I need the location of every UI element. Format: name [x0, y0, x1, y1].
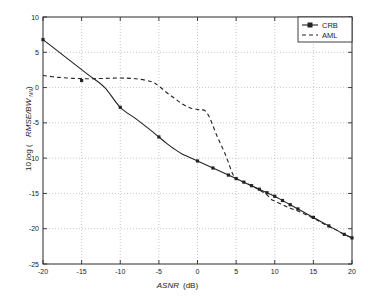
y-tick-label: 10: [31, 14, 39, 21]
legend-marker-crb: [308, 23, 313, 28]
x-tick-label: 5: [234, 268, 238, 275]
y-tick-label: 5: [35, 49, 39, 56]
x-tick-label: -15: [77, 268, 87, 275]
legend[interactable]: CRB AML: [298, 17, 352, 42]
y-tick-labels: -25-20-15-10-50510: [29, 14, 39, 268]
x-tick-label: -20: [38, 268, 48, 275]
y-tick-label: 0: [35, 84, 39, 91]
x-tick-label: 0: [196, 268, 200, 275]
series-marker-crb: [258, 188, 261, 191]
series-marker-crb: [157, 135, 160, 138]
series-crb-path: [43, 40, 352, 238]
x-axis-title: ASNR (dB): [156, 281, 199, 290]
y-axis-title-suffix: ): [24, 86, 33, 89]
figure-container: -20-15-10-505101520 -25-20-15-10-50510 A…: [0, 0, 368, 301]
series-marker-crb: [227, 173, 230, 176]
legend-label-aml: AML: [322, 31, 337, 40]
series-marker-crb: [235, 177, 238, 180]
chart-canvas: -20-15-10-505101520 -25-20-15-10-50510 A…: [0, 0, 368, 301]
x-tick-label: -5: [156, 268, 162, 275]
series-marker-crb: [350, 236, 353, 239]
series-marker-crb: [296, 207, 299, 210]
x-axis-title-main: ASNR: [156, 281, 179, 290]
series-marker-crb: [242, 181, 245, 184]
x-tick-label: 20: [348, 268, 356, 275]
series-line-crb: [43, 40, 352, 238]
series-marker-crb: [196, 159, 199, 162]
series-marker-crb: [289, 203, 292, 206]
series-marker-crb: [119, 106, 122, 109]
series-marker-crb: [312, 216, 315, 219]
series-marker-crb: [327, 224, 330, 227]
y-axis-title-prefix: 10 log (: [24, 144, 33, 171]
series-marker-crb: [273, 195, 276, 198]
grid-lines: [43, 17, 352, 264]
legend-label-crb: CRB: [322, 21, 338, 30]
series-marker-crb: [343, 233, 346, 236]
x-tick-label: 15: [309, 268, 317, 275]
y-axis-title: 10 log ( RMSE/BW NN ): [24, 86, 34, 171]
series-marker-crb: [80, 79, 83, 82]
y-tick-label: -5: [33, 119, 39, 126]
x-tick-label: 10: [271, 268, 279, 275]
y-tick-label: -20: [29, 225, 39, 232]
y-tick-label: -25: [29, 261, 39, 268]
series-marker-crb: [250, 184, 253, 187]
y-axis-title-italic: RMSE/BW: [24, 97, 33, 137]
y-axis-title-subscript: NN: [28, 89, 34, 97]
x-tick-label: -10: [115, 268, 125, 275]
x-axis-title-units: (dB): [183, 281, 198, 290]
series-marker-crb: [265, 191, 268, 194]
y-tick-label: -15: [29, 190, 39, 197]
series-marker-crb: [281, 199, 284, 202]
x-tick-labels: -20-15-10-505101520: [38, 268, 356, 275]
series-marker-crb: [41, 38, 44, 41]
series-marker-crb: [211, 166, 214, 169]
